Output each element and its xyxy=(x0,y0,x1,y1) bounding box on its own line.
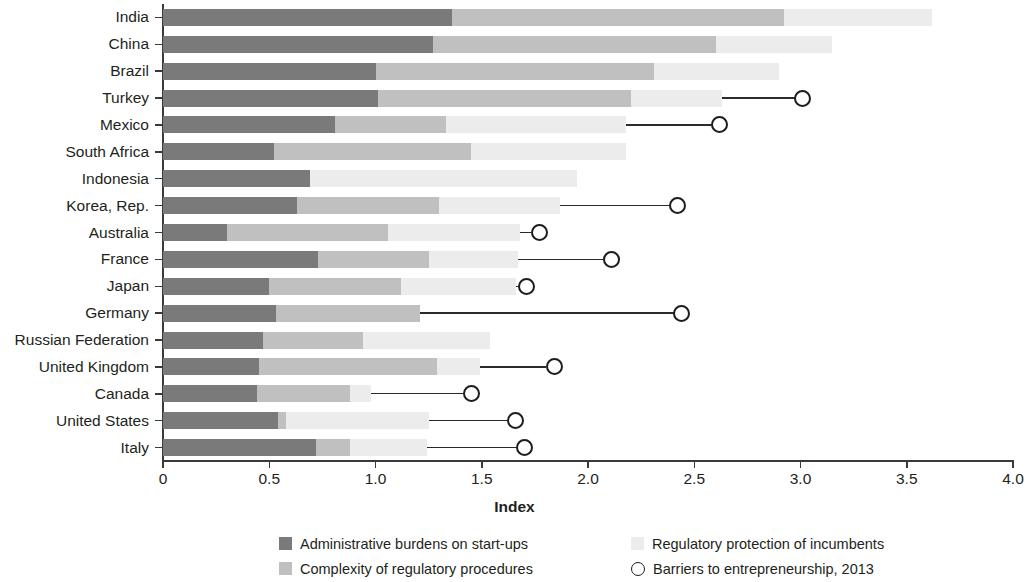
bar-row xyxy=(163,412,1013,429)
bar-segment xyxy=(163,332,263,349)
y-axis-label-mexico: Mexico xyxy=(8,117,149,133)
bar-row xyxy=(163,358,1013,375)
bar-segment xyxy=(378,90,631,107)
bar-segment xyxy=(274,143,472,160)
bar-segment xyxy=(163,63,376,80)
y-axis-label-italy: Italy xyxy=(8,440,149,456)
bar-segment xyxy=(335,116,446,133)
bar-row xyxy=(163,332,1013,349)
x-axis-tick xyxy=(694,461,696,468)
bar-segment xyxy=(439,197,560,214)
bar-segment xyxy=(276,305,421,322)
bar-row xyxy=(163,90,1013,107)
x-axis-tick-label: 4.0 xyxy=(1002,470,1024,488)
y-axis-tick xyxy=(155,232,163,234)
marker-connector-line xyxy=(560,205,669,206)
bar-segment xyxy=(163,412,278,429)
barriers-marker xyxy=(463,385,480,402)
bar-segment xyxy=(163,439,316,456)
bar-segment xyxy=(163,224,227,241)
legend-swatch-icon xyxy=(279,562,292,575)
chart-container: IndiaChinaBrazilTurkeyMexicoSouth Africa… xyxy=(0,0,1029,582)
bar-row xyxy=(163,143,1013,160)
bar-segment xyxy=(163,9,452,26)
bar-segment xyxy=(269,278,401,295)
x-axis-tick xyxy=(162,461,164,468)
bar-row xyxy=(163,116,1013,133)
bar-row xyxy=(163,36,1013,53)
legend-label: Barriers to entrepreneurship, 2013 xyxy=(653,561,874,577)
bar-segment xyxy=(310,170,578,187)
bar-segment xyxy=(350,439,427,456)
x-axis-tick xyxy=(587,461,589,468)
legend-label: Complexity of regulatory procedures xyxy=(300,561,533,577)
y-axis-tick xyxy=(155,312,163,314)
y-axis-tick xyxy=(155,151,163,153)
bar-segment xyxy=(654,63,779,80)
y-axis-tick xyxy=(155,44,163,46)
x-axis-tick xyxy=(375,461,377,468)
bar-segment xyxy=(163,36,433,53)
y-axis-tick xyxy=(155,447,163,449)
bar-segment xyxy=(363,332,491,349)
barriers-marker xyxy=(546,358,563,375)
bar-segment xyxy=(350,385,371,402)
y-axis-tick xyxy=(155,124,163,126)
bar-segment xyxy=(163,143,274,160)
bar-segment xyxy=(388,224,520,241)
x-axis-tick xyxy=(269,461,271,468)
y-axis-tick xyxy=(155,286,163,288)
legend-label: Regulatory protection of incumbents xyxy=(652,536,884,552)
legend-item: Administrative burdens on start-ups xyxy=(279,536,631,552)
y-axis-tick xyxy=(155,366,163,368)
bar-segment xyxy=(257,385,351,402)
y-axis-label-korea-rep: Korea, Rep. xyxy=(8,198,149,214)
x-axis-tick xyxy=(800,461,802,468)
legend-item: Barriers to entrepreneurship, 2013 xyxy=(631,561,919,577)
y-axis-tick xyxy=(155,70,163,72)
x-axis-tick-label: 0 xyxy=(159,470,168,488)
x-axis-tick xyxy=(481,461,483,468)
y-axis-tick xyxy=(155,178,163,180)
y-axis-tick xyxy=(155,420,163,422)
y-axis-label-indonesia: Indonesia xyxy=(8,171,149,187)
bar-segment xyxy=(163,385,257,402)
bar-row xyxy=(163,63,1013,80)
y-axis-tick xyxy=(155,97,163,99)
bar-segment xyxy=(452,9,784,26)
y-axis-label-australia: Australia xyxy=(8,225,149,241)
bar-segment xyxy=(297,197,439,214)
y-axis-label-south-africa: South Africa xyxy=(8,144,149,160)
y-axis-label-india: India xyxy=(8,9,149,25)
bar-segment xyxy=(286,412,428,429)
y-axis-tick xyxy=(155,17,163,19)
legend-swatch-icon xyxy=(279,537,292,550)
y-axis-tick xyxy=(155,339,163,341)
bar-segment xyxy=(163,90,378,107)
barriers-marker xyxy=(518,278,535,295)
legend-item: Regulatory protection of incumbents xyxy=(631,536,919,552)
barriers-marker xyxy=(673,305,690,322)
bar-row xyxy=(163,224,1013,241)
marker-connector-line xyxy=(480,366,546,367)
y-axis-label-france: France xyxy=(8,251,149,267)
bar-segment xyxy=(227,224,389,241)
bar-segment xyxy=(429,251,518,268)
y-axis-label-russian-federation: Russian Federation xyxy=(8,332,149,348)
marker-connector-line xyxy=(626,124,712,125)
y-axis-label-japan: Japan xyxy=(8,278,149,294)
barriers-marker xyxy=(669,197,686,214)
x-axis-tick-label: 2.0 xyxy=(577,470,599,488)
bar-segment xyxy=(278,412,287,429)
y-axis-label-turkey: Turkey xyxy=(8,90,149,106)
bar-segment xyxy=(316,439,350,456)
x-axis-tick-label: 2.5 xyxy=(683,470,705,488)
marker-connector-line xyxy=(371,393,463,394)
bar-row xyxy=(163,278,1013,295)
open-circle-icon xyxy=(631,562,645,576)
bar-segment xyxy=(433,36,716,53)
barriers-marker xyxy=(531,224,548,241)
x-axis-tick-label: 0.5 xyxy=(258,470,280,488)
y-axis-label-china: China xyxy=(8,36,149,52)
bar-segment xyxy=(437,358,480,375)
